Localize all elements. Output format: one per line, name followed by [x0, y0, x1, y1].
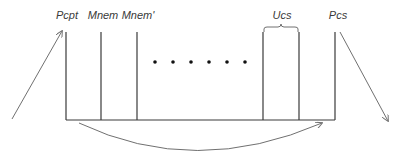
- ellipsis-dots: [153, 60, 247, 64]
- output-arrow-icon: [340, 32, 388, 121]
- diagram-graphics: [0, 0, 406, 163]
- label-mnem: Mnem: [88, 10, 119, 21]
- psychic-apparatus-diagram: Pcpt Mnem Mnem' Ucs Pcs: [0, 0, 406, 163]
- label-pcs: Pcs: [329, 10, 347, 21]
- system-comb: [66, 32, 335, 120]
- ucs-brace: [264, 24, 298, 32]
- label-mnem-prime: Mnem': [122, 10, 155, 21]
- label-ucs: Ucs: [273, 10, 292, 21]
- input-arrow-icon: [12, 31, 62, 119]
- feedback-curve-arrow-icon: [79, 123, 322, 151]
- label-pcpt: Pcpt: [56, 10, 78, 21]
